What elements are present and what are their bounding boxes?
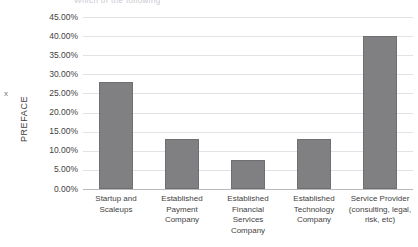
y-axis-tick-label: 10.00% <box>26 146 78 155</box>
bar <box>231 160 265 189</box>
plot-area <box>83 17 413 189</box>
y-axis-tick-label: 40.00% <box>26 32 78 41</box>
y-axis-tick-label: 15.00% <box>26 127 78 136</box>
x-axis-tick-label: Startup and Scaleups <box>83 194 149 247</box>
y-axis-tick-label: 25.00% <box>26 89 78 98</box>
bar <box>99 82 133 189</box>
y-axis-tick-label: 20.00% <box>26 108 78 117</box>
gridline <box>83 17 413 18</box>
y-axis-tick-label: 30.00% <box>26 70 78 79</box>
clipped-chart-title: Which of the following <box>74 0 234 7</box>
y-axis-tick-label: 35.00% <box>26 51 78 60</box>
bar <box>363 36 397 189</box>
y-axis-title: PREFACE <box>1 108 15 126</box>
x-axis-tick-label: Established Financial Services Company <box>215 194 281 247</box>
clipped-chart-title-text: Which of the following <box>74 0 234 5</box>
bar <box>165 139 199 189</box>
bar-chart: Which of the following x PREFACE 45.00%4… <box>0 0 418 247</box>
x-axis-tick-label: Service Provider (consulting, legal, ris… <box>347 194 413 247</box>
y-axis-tick-label: 45.00% <box>26 13 78 22</box>
y-axis-tick-label: 5.00% <box>26 165 78 174</box>
bar <box>297 139 331 189</box>
y-axis-tick-label: 0.00% <box>26 185 78 194</box>
x-axis-tick-labels: Startup and ScaleupsEstablished Payment … <box>83 194 413 247</box>
x-axis-tick-label: Established Technology Company <box>281 194 347 247</box>
x-axis-tick-label: Established Payment Company <box>149 194 215 247</box>
x-axis-line <box>83 189 413 190</box>
y-axis-tick-labels: 45.00%40.00%35.00%30.00%25.00%20.00%15.0… <box>20 0 78 247</box>
series-marker-icon: x <box>4 90 8 98</box>
